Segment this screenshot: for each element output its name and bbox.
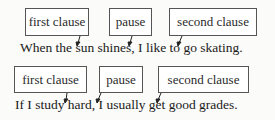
pointer-arrows <box>0 0 275 120</box>
